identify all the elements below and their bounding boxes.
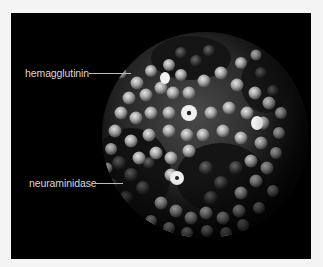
image-panel: hemagglutinin neuraminidase <box>11 13 311 259</box>
virus-particle-illustration <box>11 13 311 259</box>
neuraminidase-label: neuraminidase <box>29 177 97 189</box>
hemagglutinin-leader-line <box>89 73 131 74</box>
hemagglutinin-label: hemagglutinin <box>25 67 89 79</box>
neuraminidase-leader-line <box>95 183 123 184</box>
